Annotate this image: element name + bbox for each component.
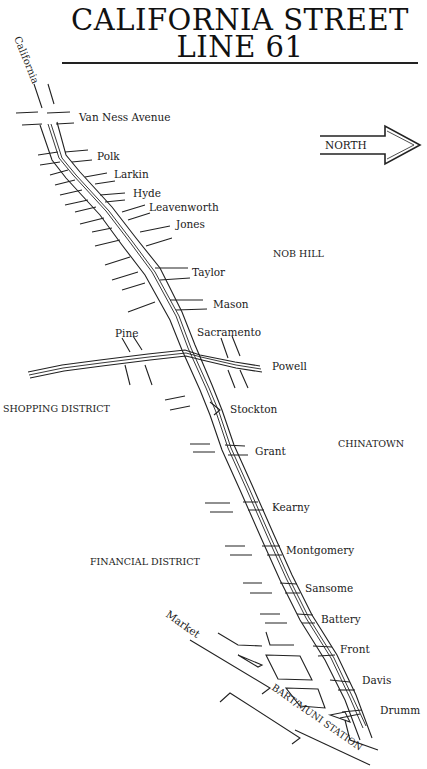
district-labels: NOB HILL SHOPPING DISTRICT CHINATOWN FIN… [3,248,404,567]
street-label-market: Market [164,608,203,641]
street-label-van-ness: Van Ness Avenue [78,111,171,123]
street-label-grant: Grant [255,445,286,457]
street-label-montgomery: Montgomery [286,544,354,556]
street-label-powell: Powell [272,360,308,372]
district-label-nob-hill: NOB HILL [273,248,324,259]
street-label-sansome: Sansome [305,582,353,594]
north-arrow-icon: NORTH [320,126,420,164]
street-label-polk: Polk [97,150,120,162]
street-label-pine: Pine [115,327,138,339]
street-labels: Van Ness Avenue Polk Larkin Hyde Leavenw… [78,111,420,716]
street-label-larkin: Larkin [114,168,149,180]
california-route-label: California [12,35,41,86]
north-arrow-label: NORTH [325,139,367,151]
route-map: California Van Ness Avenue Polk Larkin H… [0,0,427,769]
street-label-front: Front [340,643,370,655]
street-label-mason: Mason [213,298,249,310]
street-label-jones: Jones [175,218,205,230]
street-label-kearny: Kearny [272,501,310,513]
street-label-hyde: Hyde [133,187,161,199]
street-label-davis: Davis [362,674,391,686]
street-label-battery: Battery [321,613,361,625]
street-label-taylor: Taylor [192,266,226,278]
street-label-sacramento: Sacramento [197,326,261,338]
street-label-leavenworth: Leavenworth [149,201,219,213]
street-label-drumm: Drumm [380,704,420,716]
district-label-financial: FINANCIAL DISTRICT [90,556,200,567]
district-label-chinatown: CHINATOWN [338,438,404,449]
district-label-shopping: SHOPPING DISTRICT [3,403,110,414]
street-label-stockton: Stockton [230,403,278,415]
